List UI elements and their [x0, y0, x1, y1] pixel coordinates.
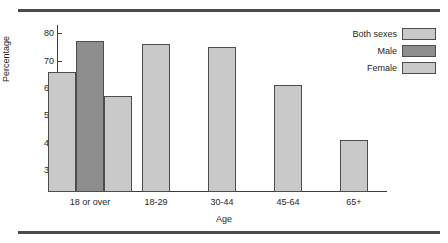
x-axis-title: Age: [0, 214, 448, 224]
legend-swatch: [402, 45, 436, 57]
bar-both-sexes: [340, 140, 368, 192]
legend-swatch: [402, 28, 436, 40]
y-axis-tick-label: 80: [14, 29, 54, 38]
y-axis-tick-label: 70: [14, 57, 54, 66]
legend-item-label: Female: [367, 63, 397, 73]
y-axis-title: Percentage: [1, 9, 11, 109]
legend-item[interactable]: Male: [300, 43, 436, 58]
bar-both-sexes: [208, 47, 236, 192]
chart-figure: Percentage 304050607080 18 or over18-293…: [0, 0, 448, 243]
bar-female: [104, 96, 132, 192]
bar-both-sexes: [274, 85, 302, 192]
bar-male: [76, 41, 104, 192]
legend-item-label: Male: [377, 46, 397, 56]
legend-item[interactable]: Female: [300, 60, 436, 75]
legend-item[interactable]: Both sexes: [300, 26, 436, 41]
bar-both-sexes: [48, 72, 76, 192]
bottom-divider-rule: [18, 231, 440, 234]
x-axis-tick-label: 65+: [309, 198, 399, 207]
top-divider-rule: [18, 9, 440, 12]
chart-legend: Both sexesMaleFemale: [300, 26, 436, 77]
bar-both-sexes: [142, 44, 170, 192]
legend-item-label: Both sexes: [352, 29, 397, 39]
legend-swatch: [402, 62, 436, 74]
